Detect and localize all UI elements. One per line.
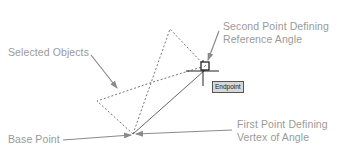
label-selected-objects-text: Selected Objects [8,46,89,58]
label-base-point: Base Point [8,133,60,146]
leader-second-point [208,31,219,60]
label-first-point-line2: Vertex of Angle [237,131,328,144]
label-base-point-text: Base Point [8,133,60,145]
label-selected-objects: Selected Objects [8,46,89,59]
dashed-triangle-upper [133,29,205,134]
dashed-line-to-crosshair [153,66,205,82]
label-first-point: First Point Defining Vertex of Angle [237,118,328,143]
label-second-point-line2: Reference Angle [223,33,329,46]
label-second-point: Second Point Defining Reference Angle [223,20,329,45]
label-first-point-line1: First Point Defining [237,118,328,131]
leader-first-point [136,130,232,134]
osnap-endpoint-tooltip: Endpoint [212,81,244,93]
dashed-triangle-lower [97,82,153,134]
drawing-canvas[interactable]: Selected Objects Second Point Defining R… [0,0,340,150]
leader-selected-objects [91,55,117,88]
label-second-point-line1: Second Point Defining [223,20,329,33]
leader-base-point [63,135,131,140]
osnap-endpoint-tooltip-text: Endpoint [215,83,241,90]
